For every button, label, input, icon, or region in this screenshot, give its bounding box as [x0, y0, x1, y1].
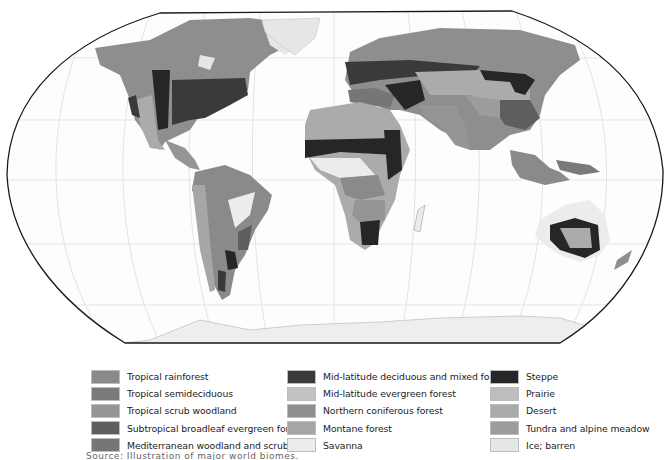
legend-label: Subtropical broadleaf evergreen forest: [127, 423, 303, 434]
legend-item: Steppe: [490, 368, 649, 385]
legend-item: Tropical rainforest: [91, 368, 303, 385]
legend-swatch: [490, 370, 519, 384]
legend-item: Prairie: [490, 385, 649, 402]
legend-label: Prairie: [526, 388, 555, 399]
legend-item: Desert: [490, 402, 649, 419]
map-legend: Tropical rainforest Tropical semideciduo…: [0, 368, 669, 460]
legend-swatch: [91, 370, 120, 384]
world-biome-map: [0, 0, 669, 350]
legend-item: Northern coniferous forest: [287, 402, 507, 419]
legend-swatch: [490, 387, 519, 401]
legend-label: Mediterranean woodland and scrub: [127, 440, 289, 451]
legend-label: Mid-latitude deciduous and mixed forest: [323, 371, 507, 382]
legend-item: Tropical semideciduous: [91, 385, 303, 402]
legend-label: Mid-latitude evergreen forest: [323, 388, 456, 399]
legend-label: Steppe: [526, 371, 558, 382]
legend-swatch: [490, 438, 519, 452]
legend-item: Montane forest: [287, 420, 507, 437]
legend-column-2: Mid-latitude deciduous and mixed forest …: [287, 368, 507, 454]
legend-label: Northern coniferous forest: [323, 405, 443, 416]
legend-swatch: [490, 404, 519, 418]
legend-label: Desert: [526, 405, 556, 416]
legend-item: Tropical scrub woodland: [91, 402, 303, 419]
legend-swatch: [91, 421, 120, 435]
legend-swatch: [287, 421, 316, 435]
figure-caption-cut-off: Source: Illustration of major world biom…: [86, 451, 386, 460]
legend-label: Ice; barren: [526, 440, 575, 451]
legend-item: Mid-latitude deciduous and mixed forest: [287, 368, 507, 385]
legend-column-3: Steppe Prairie Desert Tundra and alpine …: [490, 368, 649, 454]
legend-item: Subtropical broadleaf evergreen forest: [91, 420, 303, 437]
legend-item: Mid-latitude evergreen forest: [287, 385, 507, 402]
legend-item: Ice; barren: [490, 437, 649, 454]
legend-swatch: [287, 387, 316, 401]
legend-swatch: [287, 404, 316, 418]
legend-swatch: [287, 370, 316, 384]
legend-label: Montane forest: [323, 423, 392, 434]
legend-column-1: Tropical rainforest Tropical semideciduo…: [91, 368, 303, 454]
legend-label: Savanna: [323, 440, 363, 451]
legend-swatch: [91, 387, 120, 401]
legend-swatch: [91, 404, 120, 418]
legend-swatch: [490, 421, 519, 435]
legend-label: Tropical semideciduous: [127, 388, 233, 399]
legend-item: Tundra and alpine meadow: [490, 420, 649, 437]
legend-label: Tundra and alpine meadow: [526, 423, 649, 434]
legend-label: Tropical scrub woodland: [127, 405, 237, 416]
legend-label: Tropical rainforest: [127, 371, 208, 382]
